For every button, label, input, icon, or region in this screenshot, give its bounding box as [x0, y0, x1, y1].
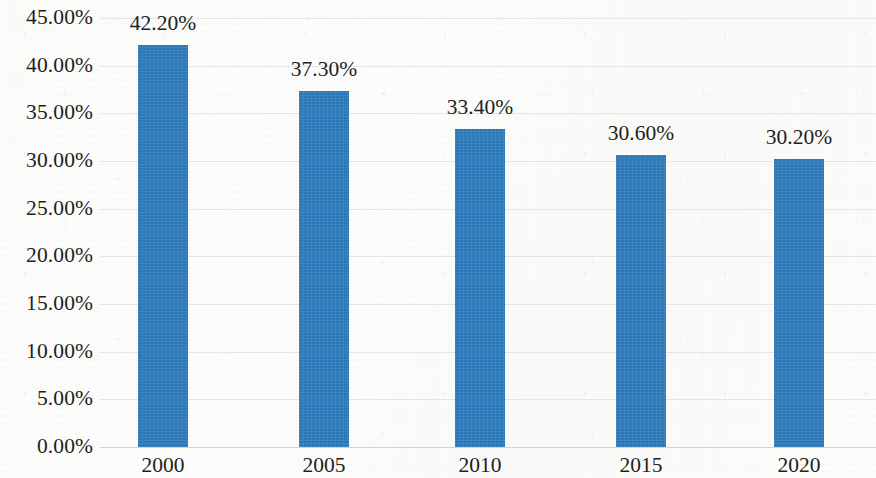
y-axis-tick-label: 10.00% [0, 341, 93, 363]
bar-chart: 0.00%5.00%10.00%15.00%20.00%25.00%30.00%… [0, 0, 876, 478]
bar-data-label: 30.60% [571, 123, 711, 145]
y-axis-tick-label: 5.00% [0, 388, 93, 410]
bar [616, 155, 666, 447]
y-axis-tick-label: 30.00% [0, 150, 93, 172]
bar [774, 159, 824, 447]
y-axis-tick-label: 35.00% [0, 102, 93, 124]
x-axis-tick-label: 2020 [729, 455, 869, 477]
x-axis-tick-label: 2000 [93, 455, 233, 477]
bar-data-label: 30.20% [729, 127, 869, 149]
y-axis-tick-label: 0.00% [0, 436, 93, 458]
y-axis-tick-label: 20.00% [0, 245, 93, 267]
bar [138, 45, 188, 447]
y-axis-tick-label: 15.00% [0, 293, 93, 315]
bar-data-label: 37.30% [254, 59, 394, 81]
bar-data-label: 42.20% [93, 13, 233, 35]
bar [455, 129, 505, 447]
gridline [100, 66, 876, 67]
bar [299, 91, 349, 447]
y-axis-tick-label: 45.00% [0, 7, 93, 29]
x-axis-tick-label: 2010 [410, 455, 550, 477]
gridline [100, 447, 876, 448]
plot-area [100, 18, 876, 447]
x-axis-tick-label: 2005 [254, 455, 394, 477]
y-axis-tick-label: 40.00% [0, 55, 93, 77]
y-axis-tick-label: 25.00% [0, 198, 93, 220]
bar-data-label: 33.40% [410, 97, 550, 119]
x-axis-tick-label: 2015 [571, 455, 711, 477]
